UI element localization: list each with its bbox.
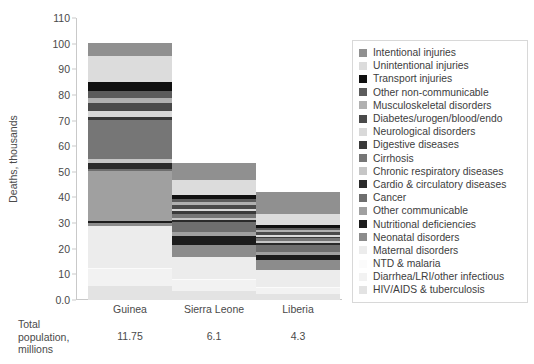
legend-item[interactable]: Digestive diseases xyxy=(359,138,521,151)
legend-item[interactable]: Cancer xyxy=(359,191,521,204)
legend-item-label: Unintentional injuries xyxy=(373,60,469,71)
bar-segment xyxy=(256,288,340,295)
legend-item[interactable]: Neonatal disorders xyxy=(359,231,521,244)
bar-segment xyxy=(256,214,340,225)
legend-item-label: Transport injuries xyxy=(373,73,452,84)
legend-swatch-icon xyxy=(359,260,367,268)
bar-segment xyxy=(88,171,172,222)
legend-item[interactable]: Maternal disorders xyxy=(359,244,521,257)
legend-item[interactable]: Unintentional injuries xyxy=(359,59,521,72)
legend-item-label: Intentional injuries xyxy=(373,47,456,58)
legend-item-label: Diabetes/urogen/blood/endo xyxy=(373,113,502,124)
bar-segment xyxy=(172,236,256,244)
legend-swatch-icon xyxy=(359,115,367,123)
legend-item[interactable]: Cirrhosis xyxy=(359,152,521,165)
legend-item-label: Other communicable xyxy=(373,205,468,216)
bar-segment xyxy=(88,111,172,118)
legend-item-label: Digestive diseases xyxy=(373,139,459,150)
y-tick-mark xyxy=(72,18,76,19)
legend-item[interactable]: Other communicable xyxy=(359,204,521,217)
legend-swatch-icon xyxy=(359,167,367,175)
bar-sierra-leone[interactable] xyxy=(172,163,256,300)
legend-swatch-icon xyxy=(359,194,367,202)
bar-segment xyxy=(88,82,172,90)
bar-segment xyxy=(172,257,256,279)
legend-item[interactable]: Musculoskeletal disorders xyxy=(359,99,521,112)
bar-segment xyxy=(172,180,256,194)
legend-item[interactable]: NTD & malaria xyxy=(359,257,521,270)
footer-line-1: Total xyxy=(18,318,78,331)
legend-item[interactable]: Neurological disorders xyxy=(359,125,521,138)
legend-swatch-icon xyxy=(359,154,367,162)
bar-segment xyxy=(88,56,172,82)
y-tick-mark xyxy=(72,223,76,224)
legend-item-label: Diarrhea/LRI/other infectious xyxy=(373,271,504,282)
legend-item[interactable]: Transport injuries xyxy=(359,72,521,85)
bar-segment xyxy=(88,43,172,56)
legend-item[interactable]: Other non-communicable xyxy=(359,86,521,99)
y-tick-mark xyxy=(72,69,76,70)
y-tick-mark xyxy=(72,300,76,301)
y-tick-mark xyxy=(72,171,76,172)
legend-swatch-icon xyxy=(359,246,367,254)
bar-segment xyxy=(88,103,172,111)
legend-item-label: HIV/AIDS & tuberculosis xyxy=(373,284,485,295)
legend-swatch-icon xyxy=(359,49,367,57)
legend-swatch-icon xyxy=(359,62,367,70)
legend-swatch-icon xyxy=(359,101,367,109)
bar-liberia[interactable] xyxy=(256,192,340,300)
y-axis-title: Deaths, thousands xyxy=(6,18,20,300)
legend-swatch-icon xyxy=(359,273,367,281)
bar-segment xyxy=(256,294,340,300)
legend-item-label: NTD & malaria xyxy=(373,258,441,269)
legend: Intentional injuriesUnintentional injuri… xyxy=(352,40,528,303)
legend-swatch-icon xyxy=(359,141,367,149)
x-axis-label: Liberia xyxy=(238,303,358,315)
legend-item[interactable]: Nutritional deficiencies xyxy=(359,217,521,230)
legend-swatch-icon xyxy=(359,128,367,136)
footer-line-2: population, xyxy=(18,331,78,344)
legend-item-label: Cirrhosis xyxy=(373,153,414,164)
bar-segment xyxy=(256,245,340,252)
plot-area: 1101009080706050403020100.0 xyxy=(76,18,342,300)
bar-segment xyxy=(88,269,172,285)
legend-item-label: Neonatal disorders xyxy=(373,232,459,243)
legend-item[interactable]: HIV/AIDS & tuberculosis xyxy=(359,283,521,296)
y-tick-mark xyxy=(72,120,76,121)
legend-item[interactable]: Intentional injuries xyxy=(359,46,521,59)
legend-item-label: Cancer xyxy=(373,192,406,203)
y-tick-mark xyxy=(72,274,76,275)
legend-swatch-icon xyxy=(359,180,367,188)
legend-item-label: Musculoskeletal disorders xyxy=(373,100,491,111)
y-tick-mark xyxy=(72,248,76,249)
legend-item[interactable]: Chronic respiratory diseases xyxy=(359,165,521,178)
y-tick-mark xyxy=(72,94,76,95)
bar-guinea[interactable] xyxy=(88,43,172,300)
bar-segment xyxy=(172,291,256,300)
legend-item-label: Neurological disorders xyxy=(373,126,475,137)
legend-swatch-icon xyxy=(359,286,367,294)
legend-swatch-icon xyxy=(359,220,367,228)
legend-item-label: Maternal disorders xyxy=(373,245,458,256)
bar-segment xyxy=(172,222,256,232)
legend-item[interactable]: Cardio & circulatory diseases xyxy=(359,178,521,191)
bar-segment xyxy=(256,270,340,287)
y-tick-mark xyxy=(72,43,76,44)
legend-item-label: Chronic respiratory diseases xyxy=(373,166,503,177)
legend-item[interactable]: Diabetes/urogen/blood/endo xyxy=(359,112,521,125)
legend-item-label: Cardio & circulatory diseases xyxy=(373,179,506,190)
bar-segment xyxy=(172,245,256,258)
population-value: 4.3 xyxy=(238,330,358,342)
legend-swatch-icon xyxy=(359,88,367,96)
y-tick-mark xyxy=(72,146,76,147)
bar-segment xyxy=(88,91,172,98)
legend-item[interactable]: Diarrhea/LRI/other infectious xyxy=(359,270,521,283)
legend-item-label: Nutritional deficiencies xyxy=(373,219,476,230)
y-axis-title-text: Deaths, thousands xyxy=(7,115,19,203)
bar-segment xyxy=(256,192,340,213)
bar-segment xyxy=(88,286,172,300)
bar-segment xyxy=(172,280,256,290)
legend-swatch-icon xyxy=(359,75,367,83)
bar-segment xyxy=(256,260,340,270)
stacked-bar-chart: Deaths, thousands 1101009080706050403020… xyxy=(0,0,534,364)
